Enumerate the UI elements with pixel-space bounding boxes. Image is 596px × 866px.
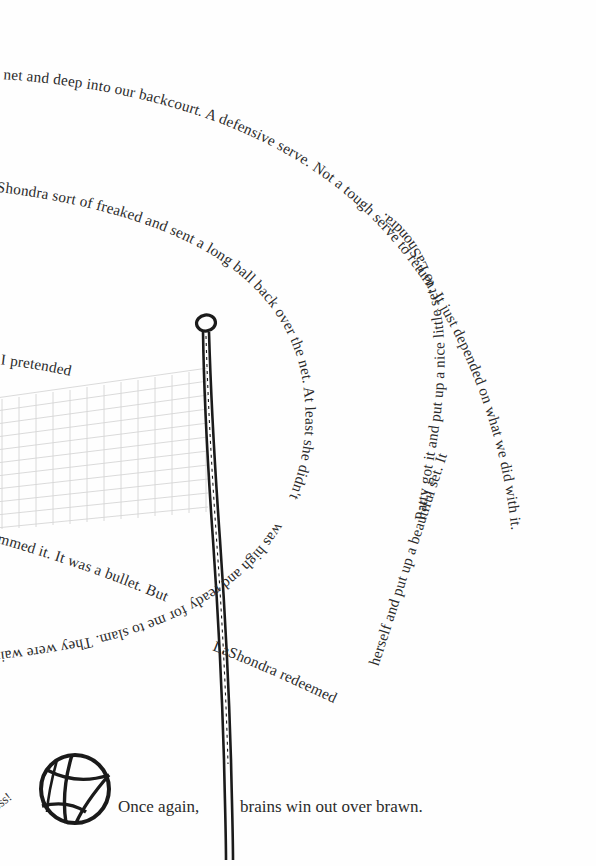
spiral-segment-8: herself and put up a beautiful set. It — [365, 450, 450, 668]
spiral-segment-7: LaShondra redeemed — [211, 637, 340, 706]
spiral-segment-5: So I pretended — [0, 348, 74, 379]
spiral-segment-3: LaShondra sort of freaked and sent a lon… — [0, 176, 320, 503]
caption-left: Once again, — [118, 797, 199, 816]
document-page: the net and deep into our backcourt. A d… — [0, 0, 596, 866]
spiral-text-layer: the net and deep into our backcourt. A d… — [0, 0, 596, 866]
hiss-sound-effect: ssssss! — [0, 789, 15, 820]
spiral-segment-6: slammed it. It was a bullet. But — [0, 525, 172, 605]
caption-right: brains win out over brawn. — [240, 797, 423, 816]
